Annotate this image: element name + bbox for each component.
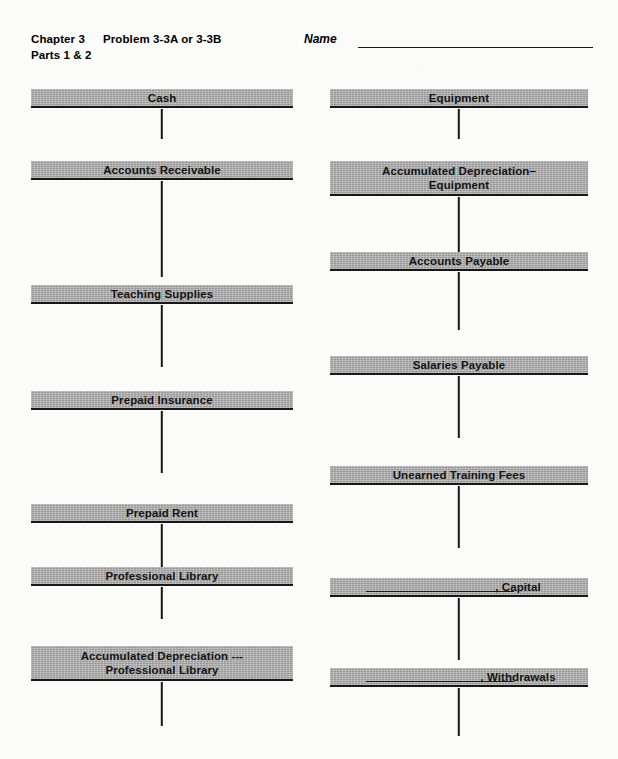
account-horizontal-rule: [330, 194, 588, 196]
account-title-bar: Salaries Payable: [330, 356, 588, 373]
account-title-bar: Accounts Payable: [330, 252, 588, 269]
account-horizontal-rule: [31, 302, 293, 304]
account-title-bar: Accumulated Depreciation --- Professiona…: [31, 646, 293, 679]
account-vertical-divider: [161, 181, 163, 277]
account-vertical-divider: [458, 598, 460, 660]
t-account-withdrawals[interactable]: , Withdrawals: [330, 668, 588, 687]
account-horizontal-rule: [31, 584, 293, 586]
account-title-bar: Accounts Receivable: [31, 161, 293, 178]
t-account-prepaid-insurance[interactable]: Prepaid Insurance: [31, 391, 293, 410]
account-title: Teaching Supplies: [111, 287, 213, 301]
name-label: Name: [304, 32, 337, 46]
account-horizontal-rule: [31, 106, 293, 108]
account-title-bar: Prepaid Rent: [31, 504, 293, 521]
t-account-cash[interactable]: Cash: [31, 89, 293, 108]
account-vertical-divider: [458, 486, 460, 548]
account-vertical-divider: [458, 376, 460, 438]
worksheet-page: Chapter 3 Problem 3-3A or 3-3B Parts 1 &…: [0, 0, 618, 759]
account-title-bar: Accumulated Depreciation– Equipment: [330, 161, 588, 194]
chapter-label: Chapter 3: [31, 33, 85, 45]
t-account-professional-library[interactable]: Professional Library: [31, 567, 293, 586]
owner-name-blank[interactable]: [366, 681, 514, 682]
t-account-salaries-payable[interactable]: Salaries Payable: [330, 356, 588, 375]
name-input-rule[interactable]: [358, 47, 593, 48]
account-vertical-divider: [458, 272, 460, 330]
account-title: Accumulated Depreciation– Equipment: [382, 164, 536, 192]
account-title: Professional Library: [105, 569, 218, 583]
account-vertical-divider: [161, 305, 163, 367]
account-title-bar: Teaching Supplies: [31, 285, 293, 302]
account-vertical-divider: [161, 524, 163, 568]
account-horizontal-rule: [31, 679, 293, 681]
account-vertical-divider: [161, 109, 163, 139]
account-title: Salaries Payable: [413, 358, 505, 372]
t-account-unearned-training-fees[interactable]: Unearned Training Fees: [330, 466, 588, 485]
account-title: Accounts Receivable: [103, 163, 221, 177]
account-vertical-divider: [161, 411, 163, 473]
account-horizontal-rule: [330, 595, 588, 597]
t-account-accumulated-depreciation-professional-library[interactable]: Accumulated Depreciation --- Professiona…: [31, 646, 293, 681]
account-horizontal-rule: [31, 178, 293, 180]
account-title-bar: Prepaid Insurance: [31, 391, 293, 408]
account-title-bar: Cash: [31, 89, 293, 106]
account-horizontal-rule: [330, 483, 588, 485]
account-horizontal-rule: [31, 408, 293, 410]
account-title: Prepaid Rent: [126, 506, 198, 520]
account-title: Prepaid Insurance: [111, 393, 212, 407]
account-vertical-divider: [458, 688, 460, 736]
t-account-accounts-payable[interactable]: Accounts Payable: [330, 252, 588, 271]
account-title-bar: Professional Library: [31, 567, 293, 584]
page-header: Chapter 3 Problem 3-3A or 3-3B Parts 1 &…: [0, 0, 618, 86]
account-title: Unearned Training Fees: [393, 468, 526, 482]
account-title: Cash: [148, 91, 177, 105]
t-account-prepaid-rent[interactable]: Prepaid Rent: [31, 504, 293, 523]
account-vertical-divider: [458, 109, 460, 139]
account-vertical-divider: [161, 587, 163, 619]
account-title: Equipment: [429, 91, 489, 105]
owner-name-blank[interactable]: [366, 591, 514, 592]
account-title: Accumulated Depreciation --- Professiona…: [81, 649, 244, 677]
account-title-bar: Equipment: [330, 89, 588, 106]
account-vertical-divider: [161, 682, 163, 726]
account-vertical-divider: [458, 197, 460, 257]
problem-label: Problem 3-3A or 3-3B: [103, 33, 222, 45]
t-account-equipment[interactable]: Equipment: [330, 89, 588, 108]
account-title-bar: , Withdrawals: [330, 668, 588, 685]
parts-label: Parts 1 & 2: [31, 49, 92, 61]
account-title: Accounts Payable: [409, 254, 510, 268]
account-title-bar: , Capital: [330, 578, 588, 595]
account-title-bar: Unearned Training Fees: [330, 466, 588, 483]
t-account-capital[interactable]: , Capital: [330, 578, 588, 597]
t-account-accumulated-depreciation-equipment[interactable]: Accumulated Depreciation– Equipment: [330, 161, 588, 196]
t-account-teaching-supplies[interactable]: Teaching Supplies: [31, 285, 293, 304]
account-horizontal-rule: [330, 106, 588, 108]
account-horizontal-rule: [330, 373, 588, 375]
account-horizontal-rule: [330, 269, 588, 271]
account-horizontal-rule: [330, 685, 588, 687]
t-account-accounts-receivable[interactable]: Accounts Receivable: [31, 161, 293, 180]
account-horizontal-rule: [31, 521, 293, 523]
